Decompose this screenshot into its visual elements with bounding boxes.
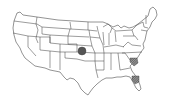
us-states-outline (0, 0, 171, 101)
us-map (0, 0, 171, 101)
kansas-marker[interactable] (78, 47, 86, 55)
